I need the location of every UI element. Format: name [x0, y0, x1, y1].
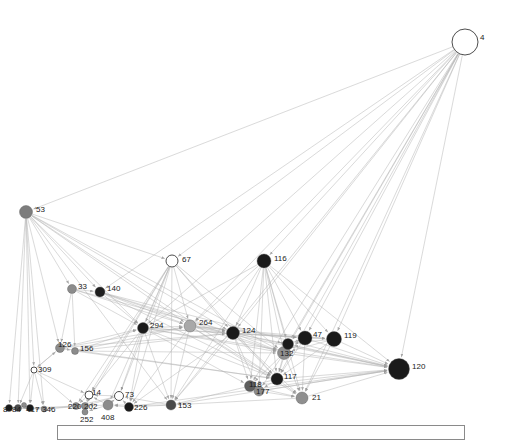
- graph-edge: [112, 400, 114, 402]
- legend-panel: [57, 425, 465, 440]
- graph-node[interactable]: [115, 392, 124, 401]
- graph-node[interactable]: [166, 400, 176, 410]
- network-graph-canvas: 4536711633140294264124471191261561323091…: [0, 0, 511, 440]
- graph-node[interactable]: [298, 331, 312, 345]
- node-label: 408: [101, 414, 114, 422]
- graph-edge: [114, 406, 124, 407]
- node-label: 117: [284, 373, 297, 381]
- graph-edge: [31, 217, 138, 323]
- node-label: 264: [199, 319, 212, 327]
- graph-edge: [295, 346, 388, 367]
- node-label: 67: [182, 256, 191, 264]
- graph-svg: [0, 0, 511, 440]
- graph-edge: [77, 290, 183, 323]
- graph-node[interactable]: [283, 339, 294, 350]
- node-label: 21: [312, 394, 321, 402]
- node-label: 140: [107, 285, 120, 293]
- graph-node[interactable]: [68, 285, 77, 294]
- node-label: 119: [344, 332, 357, 340]
- graph-edge: [72, 294, 75, 346]
- graph-edge: [338, 54, 460, 330]
- graph-edge: [9, 219, 25, 403]
- graph-edge: [31, 373, 34, 403]
- node-label: 14: [92, 389, 101, 397]
- node-label: 309: [38, 366, 51, 374]
- node-label: 156: [80, 345, 93, 353]
- graph-edge: [131, 267, 170, 401]
- graph-node[interactable]: [95, 287, 105, 297]
- graph-edge: [31, 217, 96, 287]
- node-label: 226: [134, 404, 147, 412]
- node-label: 47: [313, 331, 322, 339]
- graph-edge: [401, 55, 462, 357]
- node-label: 294: [150, 322, 163, 330]
- graph-edge: [279, 360, 282, 372]
- graph-edge: [292, 54, 459, 338]
- graph-node[interactable]: [20, 206, 33, 219]
- graph-edge: [295, 340, 298, 341]
- graph-edge: [240, 334, 387, 366]
- node-label: 153: [178, 402, 191, 410]
- graph-edge: [35, 373, 43, 404]
- graph-node[interactable]: [103, 400, 113, 410]
- graph-edge: [61, 294, 71, 342]
- node-label: 202: [84, 403, 97, 411]
- graph-node[interactable]: [327, 332, 342, 347]
- node-label: 73: [125, 391, 134, 399]
- graph-edge: [175, 338, 228, 400]
- node-label: 346: [42, 406, 55, 414]
- graph-edge: [174, 267, 188, 319]
- node-label: 84: [12, 406, 21, 414]
- node-label: 124: [242, 327, 255, 335]
- graph-node[interactable]: [125, 403, 134, 412]
- graph-edge: [79, 351, 276, 353]
- graph-node[interactable]: [257, 254, 271, 268]
- node-label: 220: [68, 403, 81, 411]
- graph-edge: [309, 54, 459, 331]
- graph-edge: [33, 47, 452, 209]
- graph-edge: [281, 54, 459, 373]
- node-label: 4: [480, 34, 484, 42]
- node-label: 417: [26, 406, 39, 414]
- graph-edge: [123, 400, 126, 403]
- graph-edge: [32, 216, 226, 329]
- graph-node[interactable]: [31, 367, 37, 373]
- node-label: 8: [3, 406, 7, 414]
- graph-edge: [148, 51, 455, 323]
- node-label: 177: [256, 388, 269, 396]
- node-label: 116: [274, 255, 287, 263]
- graph-node[interactable]: [389, 359, 410, 380]
- graph-edge: [18, 219, 26, 403]
- graph-node[interactable]: [138, 323, 149, 334]
- node-label: 53: [36, 206, 45, 214]
- graph-edge: [269, 267, 328, 333]
- edge-layer: [9, 47, 462, 411]
- graph-edge: [32, 216, 184, 322]
- graph-node[interactable]: [184, 320, 196, 332]
- graph-node[interactable]: [296, 392, 308, 404]
- graph-node[interactable]: [271, 373, 283, 385]
- graph-node[interactable]: [452, 29, 478, 55]
- graph-edge: [145, 334, 169, 399]
- graph-edge: [105, 50, 453, 289]
- node-label: 120: [412, 363, 425, 371]
- node-label: 252: [80, 416, 93, 424]
- node-label: 33: [78, 283, 87, 291]
- graph-node[interactable]: [166, 255, 178, 267]
- node-layer: [6, 29, 479, 415]
- graph-edge: [236, 268, 261, 326]
- graph-edge: [79, 266, 169, 401]
- graph-edge: [37, 371, 84, 392]
- graph-node[interactable]: [72, 348, 79, 355]
- node-label: 126: [58, 341, 71, 349]
- node-label: 132: [280, 350, 293, 358]
- graph-node[interactable]: [227, 327, 240, 340]
